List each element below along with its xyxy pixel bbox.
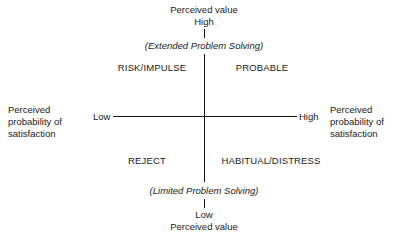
vertical-axis-bottom-end-label: Low [195, 209, 212, 221]
vertical-axis-bottom-annotation: (Limited Problem Solving) [150, 185, 259, 197]
right-title-line-2: probability of [330, 116, 384, 128]
horizontal-axis-left-end-label: Low [93, 111, 110, 123]
vertical-axis-top-title: Perceived value [170, 4, 238, 16]
vertical-axis-bottom-title: Perceived value [170, 221, 238, 233]
horizontal-axis-right-title: Perceived probability of satisfaction [330, 104, 384, 140]
left-title-line-1: Perceived [8, 104, 62, 116]
right-title-line-3: satisfaction [330, 128, 384, 140]
left-title-line-2: probability of [8, 116, 62, 128]
vertical-axis-top-annotation: (Extended Problem Solving) [145, 40, 263, 52]
left-title-line-3: satisfaction [8, 128, 62, 140]
vertical-axis-line [204, 54, 205, 182]
vertical-axis-top-end-label: High [194, 16, 214, 28]
vertical-axis-top-stub [204, 29, 205, 38]
vertical-axis-bottom-stub [204, 199, 205, 208]
diagram-canvas: Perceived value High (Extended Problem S… [0, 0, 406, 235]
quadrant-label-top-left: RISK/IMPULSE [118, 62, 186, 74]
horizontal-axis-line [113, 116, 297, 117]
quadrant-label-top-right: PROBABLE [236, 62, 288, 74]
horizontal-axis-left-title: Perceived probability of satisfaction [8, 104, 62, 140]
quadrant-label-bottom-left: REJECT [128, 155, 166, 167]
quadrant-label-bottom-right: HABITUAL/DISTRESS [221, 155, 320, 167]
right-title-line-1: Perceived [330, 104, 384, 116]
horizontal-axis-right-end-label: High [299, 111, 319, 123]
